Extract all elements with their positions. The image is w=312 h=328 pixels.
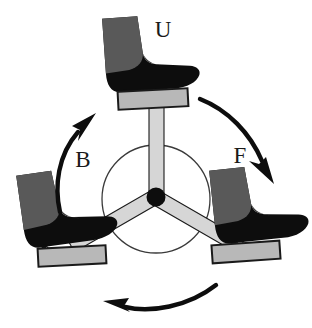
label-front: F xyxy=(234,143,247,168)
label-back: B xyxy=(75,147,90,172)
label-up: U xyxy=(155,17,172,42)
pedal-left xyxy=(38,245,107,267)
hub-center xyxy=(147,188,166,207)
pedal-top xyxy=(118,88,189,110)
pedal-right xyxy=(211,241,280,264)
pedal-crank-diagram: U B F xyxy=(0,0,312,328)
spoke-up xyxy=(149,99,164,199)
figure-root: U B F xyxy=(0,0,312,328)
